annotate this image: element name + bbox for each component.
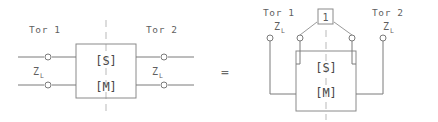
left-port1-lower-terminal [45, 82, 51, 88]
right-port1-inner-terminal [297, 35, 303, 41]
left-impedance-matrix-label: [M] [95, 80, 117, 94]
left-impedance-right-subscript: L [159, 72, 163, 80]
right-port2-inner-wire [352, 41, 356, 64]
right-impedance-right-symbol: Z [383, 21, 389, 32]
left-scattering-matrix-label: [S] [95, 54, 117, 68]
left-port1-label: Tor 1 [29, 24, 61, 35]
right-port2-inner-terminal [349, 35, 355, 41]
right-impedance-right-subscript: L [390, 27, 394, 35]
circuit-diagram-svg: Tor 1 Tor 2 Z L Z L [S] [M] = 1 [S] [M] [0, 0, 438, 122]
right-port2-outer-terminal [380, 35, 386, 41]
right-port1-outer-terminal [267, 35, 273, 41]
left-port2-label: Tor 2 [146, 24, 178, 35]
right-port2-outer-wire [356, 41, 383, 94]
right-port2-label: Tor 2 [372, 7, 404, 18]
left-port2-upper-terminal [161, 54, 167, 60]
equals-sign: = [221, 64, 229, 79]
right-port1-inner-wire [296, 41, 300, 64]
two-port-network-figure: Tor 1 Tor 2 Z L Z L [S] [M] = 1 [S] [M] [0, 0, 438, 122]
left-port1-upper-terminal [45, 54, 51, 60]
right-scattering-matrix-label: [S] [315, 61, 337, 75]
right-impedance-left-subscript: L [281, 27, 285, 35]
leader-line-left [300, 22, 317, 35]
left-port2-lower-terminal [161, 82, 167, 88]
right-port1-label: Tor 1 [263, 7, 295, 18]
leader-line-right [334, 22, 352, 35]
reference-plane-label: 1 [322, 12, 328, 23]
right-port1-outer-wire [270, 41, 296, 94]
right-impedance-matrix-label: [M] [315, 86, 337, 100]
left-circuit-group: Tor 1 Tor 2 Z L Z L [S] [M] [18, 20, 194, 112]
left-impedance-right-symbol: Z [152, 66, 158, 77]
left-impedance-left-subscript: L [40, 72, 44, 80]
left-impedance-left-symbol: Z [33, 66, 39, 77]
right-impedance-left-symbol: Z [274, 21, 280, 32]
right-circuit-group: 1 [S] [M] Tor 1 Z L Tor [263, 7, 404, 120]
